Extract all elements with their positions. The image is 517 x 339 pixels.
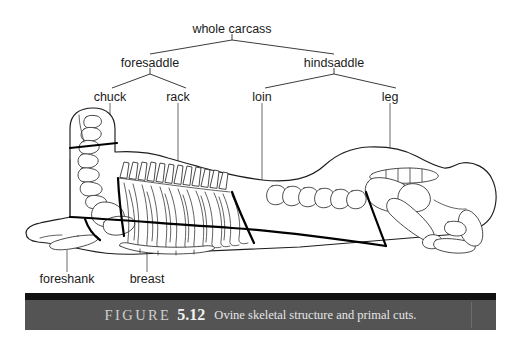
connector-root-hindsaddle	[232, 40, 334, 54]
label-chuck: chuck	[94, 90, 127, 104]
caption-figure-word: FIGURE	[105, 307, 172, 324]
cervical-vertebra-2	[81, 127, 101, 141]
cervical-vertebra-4	[78, 154, 98, 168]
figure-caption-bar: FIGURE 5.12 Ovine skeletal structure and…	[25, 293, 496, 330]
metatarsal	[444, 221, 466, 236]
label-loin: loin	[252, 90, 272, 104]
connector-foresaddle-chuck	[112, 68, 150, 88]
label-rack: rack	[166, 90, 190, 104]
caption-top-strip	[25, 293, 496, 300]
label-breast: breast	[130, 272, 165, 286]
label-whole-carcass: whole carcass	[191, 22, 271, 36]
cervical-vertebra-1	[84, 115, 102, 128]
hierarchy-labels: whole carcass foresaddle hindsaddle chuc…	[94, 22, 399, 104]
cervical-vertebra-5	[78, 168, 99, 182]
caption-content: FIGURE 5.12 Ovine skeletal structure and…	[25, 300, 496, 330]
caption-description: Ovine skeletal structure and primal cuts…	[214, 308, 416, 323]
ovine-skeleton-diagram: whole carcass foresaddle hindsaddle chuc…	[0, 0, 517, 339]
bottom-labels: foreshank breast	[40, 272, 165, 286]
caption-figure-number: 5.12	[177, 306, 205, 324]
label-foresaddle: foresaddle	[121, 56, 179, 70]
figure-container: whole carcass foresaddle hindsaddle chuc…	[0, 0, 517, 339]
label-foreshank: foreshank	[40, 272, 96, 286]
lumbar-vertebra-6	[347, 190, 367, 209]
label-leg: leg	[382, 90, 399, 104]
connector-hindsaddle-leg	[334, 74, 396, 88]
caption-divider	[471, 302, 472, 328]
connector-hindsaddle-loin	[265, 68, 334, 88]
connector-foresaddle-rack	[150, 74, 186, 88]
label-hindsaddle: hindsaddle	[304, 56, 365, 70]
connector-root-foresaddle	[150, 34, 232, 54]
cervical-vertebra-6	[80, 182, 102, 196]
